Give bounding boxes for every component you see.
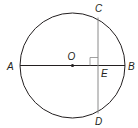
label-o: O (68, 51, 76, 62)
label-e: E (101, 68, 108, 79)
right-angle-mark (90, 58, 98, 66)
center-point-o (71, 64, 74, 67)
circle-diagram-svg: A B O C D E (0, 0, 138, 128)
label-b: B (128, 61, 135, 72)
label-a: A (6, 61, 14, 72)
label-c: C (95, 3, 103, 14)
geometry-diagram: A B O C D E (0, 0, 138, 128)
label-d: D (95, 116, 102, 127)
